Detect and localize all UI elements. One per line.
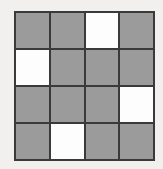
- grid-cell-r1c0[interactable]: [16, 50, 49, 85]
- screenshot-stage: [0, 0, 163, 169]
- grid-cell-r0c2[interactable]: [86, 13, 119, 48]
- grid-cell-r3c1[interactable]: [51, 124, 84, 159]
- grid-cell-r0c1[interactable]: [51, 13, 84, 48]
- grid-cell-r1c2[interactable]: [86, 50, 119, 85]
- grid-cell-r1c3[interactable]: [120, 50, 153, 85]
- grid-cell-r0c0[interactable]: [16, 13, 49, 48]
- grid-cell-r1c1[interactable]: [51, 50, 84, 85]
- grid-cell-r3c3[interactable]: [120, 124, 153, 159]
- grid-cell-r3c2[interactable]: [86, 124, 119, 159]
- grid-cell-r2c1[interactable]: [51, 87, 84, 122]
- grid-cell-r2c2[interactable]: [86, 87, 119, 122]
- grid-cell-r2c3[interactable]: [120, 87, 153, 122]
- grid-cell-r2c0[interactable]: [16, 87, 49, 122]
- pattern-grid: [14, 11, 155, 161]
- grid-cell-r3c0[interactable]: [16, 124, 49, 159]
- grid-cell-r0c3[interactable]: [120, 13, 153, 48]
